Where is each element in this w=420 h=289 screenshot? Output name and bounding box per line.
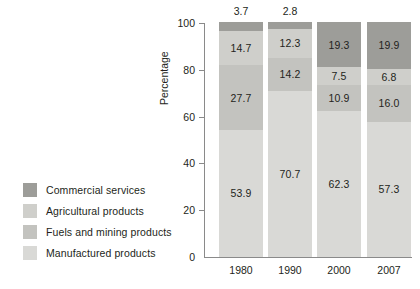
legend-item-manufactured-products: Manufactured products [23, 242, 183, 263]
y-tick-label: 80 [183, 64, 195, 76]
segment-manufactured-products-2007[interactable]: 57.3 [367, 122, 411, 257]
y-tick-mark [199, 23, 204, 24]
segment-value: 53.9 [230, 188, 251, 199]
bar-2000[interactable]: 19.3 7.5 10.9 62.3 [317, 22, 361, 257]
segment-value: 70.7 [279, 169, 300, 180]
legend-swatch-icon-manufactured-products [23, 246, 37, 260]
segment-fuels-and-mining-products-1980[interactable]: 27.7 [219, 65, 263, 130]
y-axis-line [204, 23, 205, 258]
legend-item-commercial-services: Commercial services [23, 179, 183, 200]
y-tick-label: 0 [189, 251, 195, 263]
plot-area: 100 80 60 40 20 0 3.7 3.7 14.7 [204, 23, 412, 258]
segment-value: 19.9 [378, 40, 399, 51]
y-tick-label: 40 [183, 157, 195, 169]
x-axis-line [204, 257, 412, 258]
segment-value: 19.3 [328, 40, 349, 51]
segment-value: 12.3 [279, 38, 300, 49]
bar-1990[interactable]: 2.8 12.3 14.2 70.7 [268, 22, 312, 257]
segment-value: 6.8 [381, 72, 396, 83]
y-tick-mark [199, 163, 204, 164]
bar-1980[interactable]: 3.7 14.7 27.7 53.9 [219, 22, 263, 257]
x-tick-label-1980: 1980 [219, 264, 263, 276]
segment-value: 7.5 [331, 71, 346, 82]
segment-manufactured-products-2000[interactable]: 62.3 [317, 111, 361, 257]
segment-value: 14.2 [279, 69, 300, 80]
legend-swatch-icon-commercial-services [23, 183, 37, 197]
segment-fuels-and-mining-products-2000[interactable]: 10.9 [317, 85, 361, 111]
segment-fuels-and-mining-products-2007[interactable]: 16.0 [367, 85, 411, 123]
x-tick-label-2007: 2007 [367, 264, 411, 276]
segment-manufactured-products-1980[interactable]: 53.9 [219, 130, 263, 257]
legend-item-fuels-and-mining-products: Fuels and mining products [23, 221, 183, 242]
segment-value: 27.7 [230, 93, 251, 104]
segment-agricultural-products-2000[interactable]: 7.5 [317, 67, 361, 85]
segment-commercial-services-1990[interactable]: 2.8 [268, 22, 312, 29]
legend-label-commercial-services: Commercial services [46, 184, 145, 196]
legend-item-agricultural-products: Agricultural products [23, 200, 183, 221]
x-tick-label-1990: 1990 [268, 264, 312, 276]
bar-2007[interactable]: 19.9 6.8 16.0 57.3 [367, 22, 411, 257]
chart-legend: Commercial services Agricultural product… [23, 179, 183, 263]
y-tick-label: 20 [183, 204, 195, 216]
y-axis-title: Percentage [158, 51, 170, 105]
segment-manufactured-products-1990[interactable]: 70.7 [268, 91, 312, 257]
segment-value: 10.9 [328, 93, 349, 104]
y-tick-label: 60 [183, 111, 195, 123]
legend-label-fuels-and-mining-products: Fuels and mining products [46, 226, 172, 238]
segment-commercial-services-1980[interactable]: 3.7 [219, 22, 263, 31]
y-tick-mark [199, 70, 204, 71]
segment-agricultural-products-1980[interactable]: 14.7 [219, 31, 263, 66]
segment-commercial-services-2007[interactable]: 19.9 [367, 22, 411, 69]
stacked-bar-chart-figure: Commercial services Agricultural product… [0, 0, 420, 289]
segment-value: 14.7 [230, 43, 251, 54]
legend-swatch-icon-agricultural-products [23, 204, 37, 218]
y-tick-mark [199, 210, 204, 211]
bar-top-label-1980: 3.7 [219, 5, 263, 17]
x-tick-label-2000: 2000 [317, 264, 361, 276]
segment-commercial-services-2000[interactable]: 19.3 [317, 22, 361, 67]
legend-label-agricultural-products: Agricultural products [46, 205, 144, 217]
segment-agricultural-products-1990[interactable]: 12.3 [268, 29, 312, 58]
segment-value: 62.3 [328, 179, 349, 190]
legend-swatch-icon-fuels-and-mining-products [23, 225, 37, 239]
segment-value: 57.3 [378, 184, 399, 195]
bar-top-label-1990: 2.8 [268, 5, 312, 17]
segment-value: 16.0 [378, 98, 399, 109]
y-tick-mark [199, 117, 204, 118]
y-tick-label: 100 [177, 17, 195, 29]
segment-fuels-and-mining-products-1990[interactable]: 14.2 [268, 58, 312, 91]
segment-agricultural-products-2007[interactable]: 6.8 [367, 69, 411, 85]
legend-label-manufactured-products: Manufactured products [46, 247, 156, 259]
